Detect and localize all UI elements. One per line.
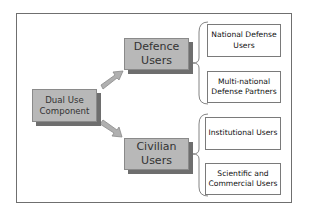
multinational-label-2: Defense Partners <box>211 87 276 98</box>
arrow-down-right-icon <box>100 120 122 137</box>
institutional-label-1: Institutional Users <box>209 128 278 139</box>
civilian-users-box: Civilian Users <box>124 138 189 170</box>
civilian-label-1: Civilian <box>136 140 176 154</box>
scientific-label-1: Scientific and <box>208 169 277 180</box>
multinational-label-1: Multi-national <box>211 77 276 88</box>
dual-use-label-1: Dual Use <box>40 95 90 106</box>
defence-users-box: Defence Users <box>124 38 189 70</box>
defence-label-1: Defence <box>134 40 180 54</box>
dual-use-label-2: Component <box>40 106 90 117</box>
multinational-defense-partners-box: Multi-national Defense Partners <box>207 71 281 103</box>
national-defense-users-box: National Defense Users <box>207 24 281 57</box>
arrow-up-right-icon <box>101 71 123 89</box>
scientific-label-2: Commercial Users <box>208 179 277 190</box>
scientific-commercial-users-box: Scientific and Commercial Users <box>205 163 281 195</box>
national-defense-label-2: Users <box>211 41 276 52</box>
brace-defence-icon <box>193 22 208 104</box>
dual-use-component-box: Dual Use Component <box>32 89 97 122</box>
defence-label-2: Users <box>134 54 180 68</box>
civilian-label-2: Users <box>136 154 176 168</box>
national-defense-label-1: National Defense <box>211 30 276 41</box>
institutional-users-box: Institutional Users <box>205 117 281 150</box>
